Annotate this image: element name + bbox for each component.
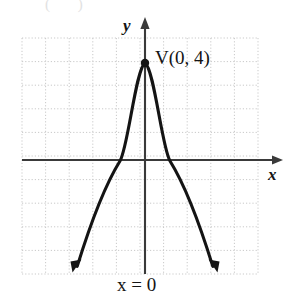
y-axis-arrow-icon [140, 17, 149, 29]
parabola-right-arrow-icon [209, 260, 220, 273]
vertex-label-text: V(0, 4) [155, 47, 210, 68]
x-axis [22, 155, 283, 164]
vertex-label: V(0, 4) [155, 48, 210, 67]
x-axis-label-text: x [268, 165, 277, 184]
graph-canvas [0, 0, 297, 305]
y-axis-label: y [123, 17, 131, 34]
vertex-point-marker [141, 59, 149, 67]
axis-of-symmetry-label: x = 0 [117, 275, 156, 294]
axis-of-symmetry-label-text: x = 0 [117, 274, 156, 295]
x-axis-label: x [268, 166, 277, 183]
x-axis-arrow-icon [272, 155, 283, 164]
parabola-left-arrow-icon [71, 260, 82, 273]
y-axis [140, 17, 149, 274]
y-axis-label-text: y [123, 16, 131, 35]
parabola-figure: ( ) [0, 0, 297, 305]
